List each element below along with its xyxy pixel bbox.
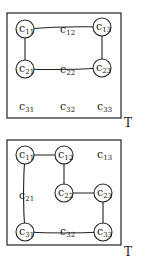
cell-c23: c23 xyxy=(93,59,111,77)
cell-c31: c31 xyxy=(16,223,34,241)
cell-label: c32 xyxy=(60,100,75,114)
cell-c11: c11 xyxy=(16,20,34,38)
diagram-canvas: c11c12c13c21c22c23c31c32c33Tc11c12c13c21… xyxy=(0,0,142,261)
diagram-label-T: T xyxy=(124,116,132,130)
cell-c21: c21 xyxy=(16,60,34,78)
cell-label: c33 xyxy=(97,100,112,114)
cell-c33: c33 xyxy=(94,223,112,241)
cell-c33: c33 xyxy=(97,100,112,114)
cell-c12: c12 xyxy=(55,146,73,164)
cell-c13: c13 xyxy=(97,148,112,162)
cell-c12: c12 xyxy=(60,23,75,37)
cell-c32: c32 xyxy=(60,225,75,239)
cell-label: c21 xyxy=(19,189,34,203)
cell-label: c31 xyxy=(19,100,34,114)
cell-c21: c21 xyxy=(19,189,34,203)
cell-c32: c32 xyxy=(60,100,75,114)
cell-c13: c13 xyxy=(93,18,111,36)
grid-diagram-1: c11c12c13c21c22c23c31c32c33T xyxy=(7,13,132,130)
cell-c31: c31 xyxy=(19,100,34,114)
diagram-label-T: T xyxy=(124,245,132,259)
grid-diagram-2: c11c12c13c21c22c23c31c32c33T xyxy=(7,140,132,259)
cell-c11: c11 xyxy=(16,146,34,164)
cell-c22: c22 xyxy=(60,63,75,77)
cell-label: c12 xyxy=(60,23,75,37)
cell-label: c32 xyxy=(60,225,75,239)
cell-label: c13 xyxy=(97,148,112,162)
cell-label: c22 xyxy=(60,63,75,77)
cell-c23: c23 xyxy=(94,184,112,202)
cell-c22: c22 xyxy=(55,184,73,202)
